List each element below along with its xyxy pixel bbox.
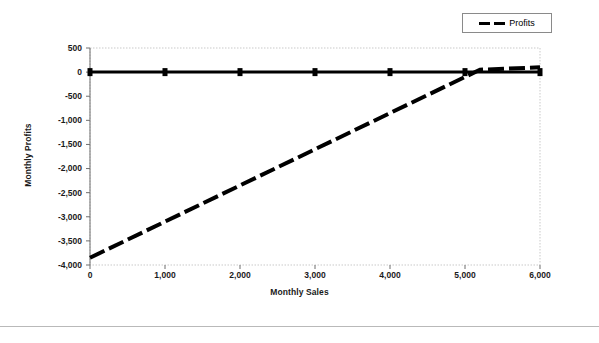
series-marker: [313, 68, 318, 76]
series-marker: [388, 68, 393, 76]
x-axis-tick-marks: [90, 265, 540, 269]
series-marker: [163, 68, 168, 76]
series-marker: [463, 68, 468, 76]
y-axis-tick-marks: [86, 48, 90, 265]
series-marker: [238, 68, 243, 76]
chart-container: Profits Monthly Profits 500 0 -500 -1,00…: [0, 0, 599, 343]
series-line: [90, 67, 540, 257]
plot-area: [0, 0, 599, 343]
page-separator-rule: [0, 326, 599, 327]
series-layer: [88, 67, 543, 257]
series-marker: [88, 68, 93, 76]
plot-frame-border: [90, 48, 540, 265]
